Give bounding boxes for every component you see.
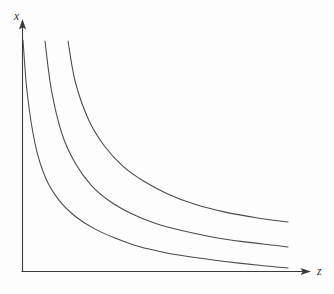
y-axis-label: x bbox=[13, 10, 20, 22]
curve-inner bbox=[23, 40, 288, 268]
curve-middle bbox=[45, 41, 288, 247]
chart-plot-area: x z bbox=[0, 0, 334, 294]
x-axis-label: z bbox=[316, 265, 322, 277]
chart-figure: x z bbox=[0, 0, 334, 294]
